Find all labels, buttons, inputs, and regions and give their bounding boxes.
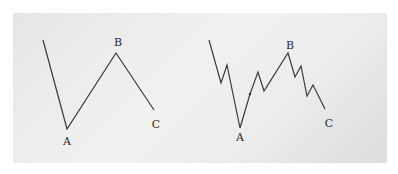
label-b-detailed: B <box>286 39 294 52</box>
label-c-simple: C <box>152 118 160 131</box>
detailed-abc-diagram: A B C <box>209 39 333 144</box>
label-a-detailed: A <box>235 131 245 144</box>
simple-abc-diagram: A B C <box>43 36 160 148</box>
wave-dot-marker <box>249 93 252 96</box>
label-a-simple: A <box>62 135 72 148</box>
abc-wave-diagrams: A B C A B C <box>0 0 398 174</box>
detailed-abc-line <box>209 40 325 128</box>
label-c-detailed: C <box>325 117 333 130</box>
label-b-simple: B <box>114 36 122 49</box>
simple-abc-line <box>43 40 154 129</box>
